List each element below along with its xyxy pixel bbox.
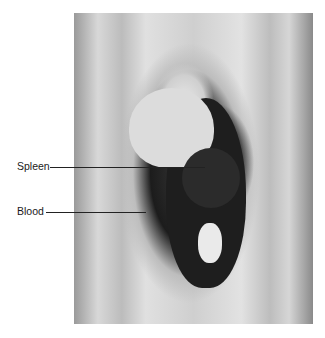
leader-line-spleen bbox=[50, 167, 205, 168]
autopsy-photograph bbox=[74, 13, 313, 324]
label-spleen: Spleen bbox=[17, 160, 50, 172]
spleen-region bbox=[182, 148, 240, 208]
label-blood: Blood bbox=[17, 205, 44, 217]
leader-line-blood bbox=[46, 212, 146, 213]
intestine-region bbox=[198, 223, 222, 263]
